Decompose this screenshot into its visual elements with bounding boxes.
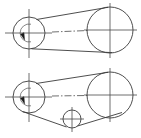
shaft-axis-centerline [52,31,88,33]
idler-belt-drive-view [5,68,137,132]
shaft-axis-centerline-idler [52,96,88,97]
belt-upper-tangent-line [37,7,109,19]
belt-drive-drawing-svg [0,0,141,138]
belt-upper-tangent-line-idler [36,72,108,83]
technical-drawing-canvas [0,0,141,138]
belt-lower-right-run [78,113,123,127]
open-belt-drive-view [5,3,137,58]
